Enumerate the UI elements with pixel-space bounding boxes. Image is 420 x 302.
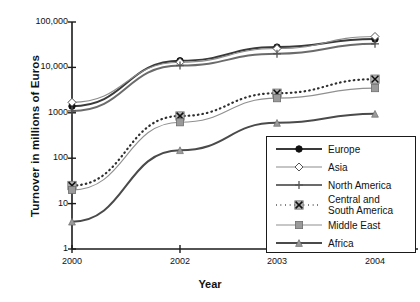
- legend-item-africa[interactable]: Africa: [267, 234, 415, 252]
- legend-label: Europe: [325, 144, 360, 155]
- legend-swatch-boxed-x-icon: [273, 196, 325, 214]
- legend-swatch-filled-circle-icon: [273, 140, 325, 158]
- y-axis-title: Turnover in millions of Euros: [29, 16, 41, 256]
- legend-label: Middle East: [325, 220, 380, 231]
- chart-figure: 100,000 10,000 1000 100 10 1 2000 2002 2…: [0, 0, 420, 302]
- series-north-america: [68, 40, 379, 115]
- legend-swatch-plus-icon: [273, 176, 325, 194]
- legend-label: Africa: [325, 238, 354, 249]
- legend-swatch-open-diamond-icon: [273, 158, 325, 176]
- legend-swatch-small-triangle-icon: [273, 234, 325, 252]
- x-tick-label: 2000: [42, 257, 102, 266]
- legend-item-north-america[interactable]: North America: [267, 176, 415, 194]
- series-asia: [68, 32, 379, 106]
- legend-label: Asia: [325, 162, 347, 173]
- x-tick-label: 2004: [345, 257, 405, 266]
- legend-item-central-and-south-america[interactable]: Central and South America: [267, 194, 415, 216]
- legend-label: Central and South America: [325, 194, 393, 216]
- legend-item-middle-east[interactable]: Middle East: [267, 216, 415, 234]
- x-tick-label: 2002: [150, 257, 210, 266]
- chart-legend: Europe Asia North America Central and So…: [266, 136, 416, 253]
- x-tick-label: 2003: [247, 257, 307, 266]
- legend-label: North America: [325, 180, 391, 191]
- legend-item-asia[interactable]: Asia: [267, 158, 415, 176]
- x-axis-title: Year: [0, 278, 420, 290]
- legend-swatch-filled-square-icon: [273, 216, 325, 234]
- legend-item-europe[interactable]: Europe: [267, 140, 415, 158]
